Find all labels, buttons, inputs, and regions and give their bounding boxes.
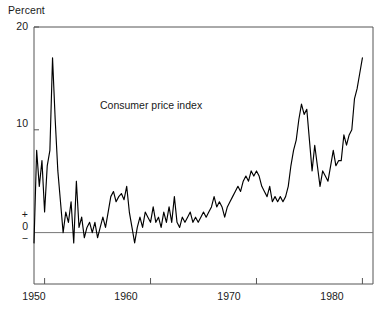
plot-area bbox=[0, 0, 392, 309]
axis-frame bbox=[34, 27, 373, 284]
chart-container: Percent 20 10 + 0 − 1950 1960 1970 1980 … bbox=[0, 0, 392, 309]
data-series-line bbox=[34, 58, 362, 243]
